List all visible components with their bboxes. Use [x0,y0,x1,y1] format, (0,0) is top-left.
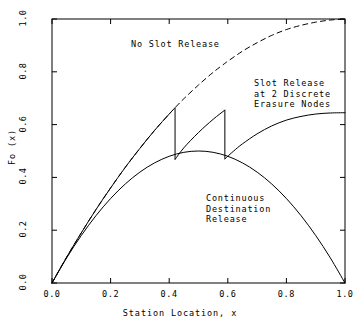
y-tick-label: 1.0 [18,3,28,33]
y-tick-label: 0.0 [18,267,28,297]
x-tick-label: 0.2 [91,289,131,299]
y-tick-label: 0.4 [18,161,28,191]
chart-figure: 0.00.20.40.60.81.0 0.00.20.40.60.81.0 St… [0,0,360,328]
y-tick-label: 0.6 [18,109,28,139]
series-line [225,113,345,159]
y-axis-label: Fo (x) [7,117,17,177]
y-tick-label: 0.2 [18,214,28,244]
annotation-continuous-destination-release: Continuous Destination Release [206,193,271,225]
x-tick-label: 0.6 [208,289,248,299]
annotation-no-slot-release: No Slot Release [131,39,220,50]
series-line [175,110,225,159]
x-tick-label: 0.8 [266,289,306,299]
series-line [52,151,345,283]
x-axis-label: Station Location, x [0,308,360,318]
data-series-group [52,19,345,283]
y-tick-label: 0.8 [18,56,28,86]
x-tick-label: 1.0 [325,289,360,299]
annotation-slot-release-2-nodes: Slot Release at 2 Discrete Erasure Nodes [254,78,331,110]
x-tick-label: 0.4 [149,289,189,299]
x-tick-label: 0.0 [32,289,72,299]
